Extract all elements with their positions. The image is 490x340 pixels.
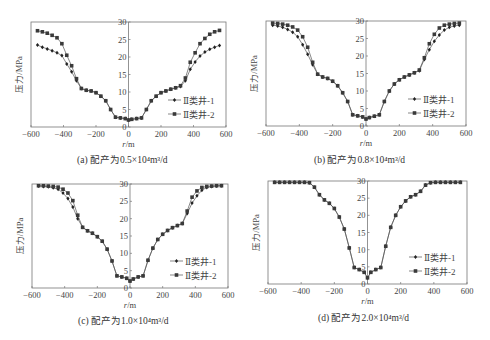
square-marker	[362, 271, 366, 275]
square-marker	[409, 195, 413, 199]
chart-d: −600−400−2000200400600051015202530r/m压力/…	[0, 0, 490, 340]
x-tick-label: −200	[326, 286, 344, 296]
square-marker	[366, 276, 370, 280]
square-marker	[323, 198, 327, 202]
square-marker	[333, 207, 337, 211]
square-marker	[338, 215, 342, 219]
square-marker	[313, 185, 317, 189]
x-tick-label: 200	[394, 286, 407, 296]
square-marker	[429, 181, 433, 185]
square-marker	[384, 244, 388, 248]
legend-diamond-marker	[414, 255, 417, 259]
square-marker	[459, 181, 463, 185]
y-tick-label: 25	[357, 193, 366, 203]
square-marker	[342, 227, 346, 231]
y-axis-label: 压力/MPa	[251, 214, 261, 251]
square-marker	[288, 181, 292, 185]
chart-panel-d: −600−400−2000200400600051015202530r/m压力/…	[0, 0, 490, 340]
square-marker	[298, 181, 302, 185]
x-tick-label: −600	[259, 286, 277, 296]
square-marker	[389, 226, 393, 230]
square-marker	[374, 268, 378, 272]
square-marker	[273, 181, 277, 185]
square-marker	[357, 268, 361, 272]
square-marker	[439, 181, 443, 185]
square-marker	[318, 193, 322, 197]
x-tick-label: 400	[427, 286, 440, 296]
x-axis-label: r/m	[361, 296, 374, 306]
y-tick-label: 20	[357, 210, 366, 220]
x-tick-label: 0	[365, 286, 369, 296]
square-marker	[352, 266, 356, 270]
square-marker	[308, 181, 312, 185]
legend-square-marker	[414, 269, 418, 273]
square-marker	[278, 181, 282, 185]
square-marker	[454, 181, 458, 185]
square-marker	[303, 181, 307, 185]
square-marker	[369, 271, 373, 275]
square-marker	[394, 214, 398, 218]
square-marker	[293, 181, 297, 185]
square-marker	[399, 205, 403, 209]
square-marker	[414, 193, 418, 197]
legend-label-1: Ⅱ类井-1	[424, 252, 456, 263]
y-tick-label: 5	[361, 262, 365, 272]
square-marker	[434, 181, 438, 185]
legend-label-2: Ⅱ类井-2	[424, 266, 456, 277]
square-marker	[419, 190, 423, 194]
square-marker	[283, 181, 287, 185]
y-tick-label: 0	[361, 279, 365, 289]
square-marker	[424, 183, 428, 187]
x-tick-label: 600	[461, 286, 474, 296]
square-marker	[449, 181, 453, 185]
y-tick-label: 30	[357, 176, 366, 186]
square-marker	[379, 266, 383, 270]
caption-d: (d) 配产为2.0×10⁴m³/d	[318, 310, 409, 324]
y-tick-label: 10	[357, 245, 366, 255]
y-tick-label: 15	[357, 228, 366, 238]
square-marker	[347, 246, 351, 250]
square-marker	[444, 181, 448, 185]
square-marker	[404, 199, 408, 203]
square-marker	[328, 202, 332, 206]
x-tick-label: −400	[292, 286, 310, 296]
